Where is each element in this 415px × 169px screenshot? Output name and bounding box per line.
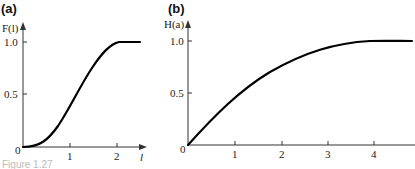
panel-a-origin-label: 0 — [15, 144, 21, 156]
panel-b-xtick-label-3: 3 — [325, 148, 331, 160]
figure: (a) F(l) 1.0 0.5 0 1 2 l (b) H(a) 1.0 0.… — [0, 0, 415, 169]
panel-a-y-arrow-icon — [20, 22, 26, 30]
panel-b-ylabel: H(a) — [164, 18, 184, 31]
panel-a-label: (a) — [1, 1, 17, 16]
panel-b-ytick-label-05: 0.5 — [170, 87, 184, 99]
panel-a-ytick-label-1: 1.0 — [4, 36, 18, 48]
panel-b-ytick-label-1: 1.0 — [170, 35, 184, 47]
panel-a-xtick-label-2: 2 — [114, 150, 120, 162]
panel-b-xtick-label-4: 4 — [371, 148, 377, 160]
panel-b-label: (b) — [168, 1, 185, 16]
panel-a-x-arrow-icon — [139, 144, 147, 150]
panel-a-xlabel: l — [140, 151, 143, 163]
figure-caption: Figure 1.27 — [2, 159, 53, 169]
panel-b-origin-label: 0 — [180, 143, 186, 155]
panel-b-xtick-label-2: 2 — [279, 148, 285, 160]
panel-b-xtick-label-1: 1 — [232, 148, 238, 160]
panel-a-curve — [23, 42, 140, 147]
panel-a-ytick-label-05: 0.5 — [4, 88, 18, 100]
panel-a-ylabel: F(l) — [2, 22, 19, 35]
panel-b-curve — [188, 41, 412, 145]
panel-a-xtick-label-1: 1 — [67, 150, 73, 162]
panel-b-y-arrow-icon — [185, 20, 191, 28]
